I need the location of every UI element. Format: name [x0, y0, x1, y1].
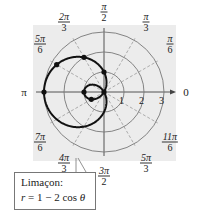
angle-label-90: π2 [100, 2, 107, 23]
angle-label-180: π [21, 87, 27, 97]
marked-point [54, 62, 59, 67]
angle-label-30: π6 [166, 34, 173, 55]
marked-point [81, 89, 86, 94]
eq-body: = 1 − 2 cos [25, 191, 80, 203]
angle-label-210: 7π6 [34, 132, 46, 153]
radial-tick-label: 3 [159, 95, 164, 106]
marked-point [101, 89, 106, 94]
marked-point [101, 69, 106, 74]
eq-theta: θ [80, 191, 85, 203]
marked-point [81, 55, 86, 60]
angle-label-60: π3 [142, 12, 149, 33]
callout-equation: r = 1 − 2 cos θ [21, 190, 95, 205]
radial-tick-label: 1 [119, 95, 124, 106]
radial-tick-label: 2 [139, 95, 144, 106]
callout-title: Limaçon: [21, 175, 95, 190]
angle-label-330: 11π6 [162, 132, 178, 153]
angle-label-240: 4π3 [58, 153, 70, 174]
angle-label-270: 3π2 [98, 166, 110, 187]
angle-label-150: 5π6 [34, 34, 46, 55]
marked-point [89, 97, 94, 102]
marked-point [41, 89, 46, 94]
angle-label-300: 5π3 [140, 153, 152, 174]
equation-callout: Limaçon: r = 1 − 2 cos θ [14, 172, 96, 210]
angle-label-0: 0 [183, 87, 189, 97]
angle-label-120: 2π3 [58, 12, 70, 33]
